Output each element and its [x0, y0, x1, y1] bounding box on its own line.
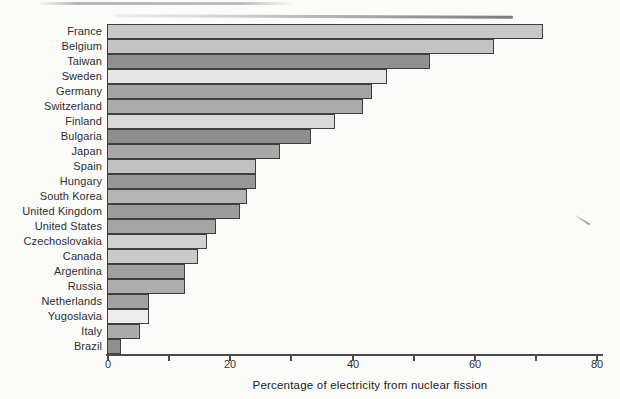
x-axis-line — [106, 354, 603, 356]
x-axis-tick — [290, 356, 292, 361]
scan-artifact-top-band — [38, 2, 294, 5]
x-axis-title: Percentage of electricity from nuclear f… — [190, 379, 550, 391]
category-label: Italy — [0, 324, 102, 339]
category-label: Yugoslavia — [0, 309, 102, 324]
bar — [107, 264, 185, 279]
x-axis-tick-label: 80 — [584, 358, 610, 370]
category-label: United Kingdom — [0, 204, 102, 219]
x-axis-tick — [413, 356, 415, 361]
x-axis-tick-label: 0 — [95, 358, 121, 370]
scan-artifact-diagonal-mark — [575, 215, 590, 226]
bar — [107, 189, 247, 204]
category-label: Brazil — [0, 339, 102, 354]
bar — [107, 204, 240, 219]
category-label: Spain — [0, 159, 102, 174]
category-label: South Korea — [0, 189, 102, 204]
category-label: Belgium — [0, 39, 102, 54]
x-axis-tick — [168, 356, 170, 361]
category-label: Finland — [0, 114, 102, 129]
bar — [107, 99, 363, 114]
bar — [107, 234, 207, 249]
bar — [107, 144, 280, 159]
category-label: Sweden — [0, 69, 102, 84]
category-label: Hungary — [0, 174, 102, 189]
bar — [107, 294, 149, 309]
x-axis-tick — [535, 356, 537, 361]
bar — [107, 309, 149, 324]
bar — [107, 174, 256, 189]
bar — [107, 249, 198, 264]
bar — [107, 159, 256, 174]
bar — [107, 24, 543, 39]
category-label: Russia — [0, 279, 102, 294]
bar — [107, 339, 121, 354]
bar — [107, 324, 140, 339]
bar — [107, 114, 335, 129]
scan-artifact-upper-streak — [115, 14, 513, 19]
bar — [107, 39, 494, 54]
x-axis-tick-label: 60 — [462, 358, 488, 370]
category-label: France — [0, 24, 102, 39]
nuclear-electricity-bar-chart: FranceBelgiumTaiwanSwedenGermanySwitzerl… — [0, 0, 620, 399]
bar — [107, 279, 185, 294]
bar — [107, 54, 430, 69]
category-label: Netherlands — [0, 294, 102, 309]
category-label: United States — [0, 219, 102, 234]
category-label: Argentina — [0, 264, 102, 279]
category-label: Canada — [0, 249, 102, 264]
x-axis-tick-label: 40 — [340, 358, 366, 370]
bar — [107, 219, 216, 234]
bar — [107, 69, 387, 84]
category-label: Bulgaria — [0, 129, 102, 144]
bar — [107, 129, 311, 144]
x-axis-tick-label: 20 — [217, 358, 243, 370]
category-label: Japan — [0, 144, 102, 159]
category-label: Czechoslovakia — [0, 234, 102, 249]
category-label: Germany — [0, 84, 102, 99]
bar — [107, 84, 372, 99]
category-label: Switzerland — [0, 99, 102, 114]
category-label: Taiwan — [0, 54, 102, 69]
